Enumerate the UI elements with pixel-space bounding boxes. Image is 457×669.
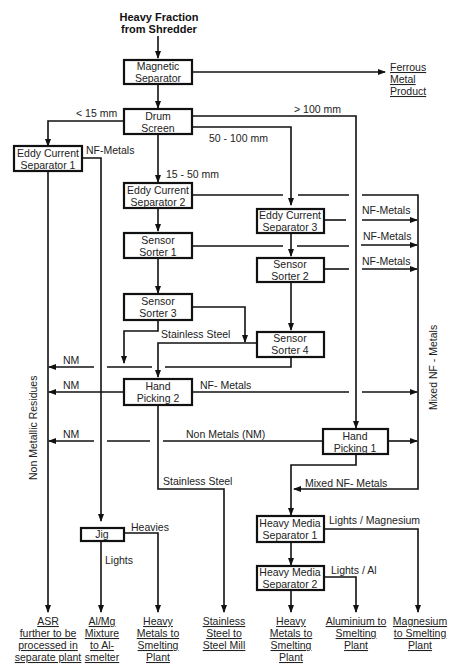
box-sensor-sorter-4: Sensor Sorter 4 xyxy=(257,332,324,357)
svg-text:Plant: Plant xyxy=(279,651,303,663)
svg-text:Drum: Drum xyxy=(145,110,171,122)
svg-text:Magnetic: Magnetic xyxy=(137,60,180,72)
box-sensor-sorter-1: Sensor Sorter 1 xyxy=(124,233,192,258)
title-line-1: Heavy Fraction xyxy=(120,11,199,23)
svg-text:Eddy Current: Eddy Current xyxy=(127,184,189,196)
svg-text:smelter: smelter xyxy=(85,651,120,663)
svg-text:Magnesium: Magnesium xyxy=(393,615,448,627)
box-heavy-media-separator-1: Heavy Media Separator 1 xyxy=(257,516,324,542)
svg-text:Steel Mill: Steel Mill xyxy=(203,639,246,651)
output-al-mg-mixture: Al/Mg Mixture to Al- smelter xyxy=(85,615,120,663)
svg-text:to Al-: to Al- xyxy=(90,639,114,651)
output-ferrous-metal-product: Ferrous Metal Product xyxy=(390,61,426,97)
svg-text:separate plant: separate plant xyxy=(15,651,82,663)
box-eddy-current-separator-3: Eddy Current Separator 3 xyxy=(257,209,324,233)
label-lights: Lights xyxy=(105,554,133,566)
svg-text:Separator 2: Separator 2 xyxy=(131,196,186,208)
svg-text:Eddy Current: Eddy Current xyxy=(259,209,321,221)
output-aluminium: Aluminium to Smelting Plant xyxy=(326,615,387,651)
output-heavy-metals-2: Heavy Metals to Smelting Plant xyxy=(270,615,313,663)
label-lights-magnesium: Lights / Magnesium xyxy=(329,514,420,526)
label-nm-1: NM xyxy=(63,354,79,366)
svg-text:Heavy: Heavy xyxy=(276,615,307,627)
svg-text:further to be: further to be xyxy=(20,627,77,639)
box-hand-picking-2: Hand Picking 2 xyxy=(124,379,192,405)
label-heavies: Heavies xyxy=(131,521,169,533)
svg-text:Separator 2: Separator 2 xyxy=(263,578,318,590)
label-stainless-steel-1: Stainless Steel xyxy=(161,328,230,340)
svg-text:Smelting: Smelting xyxy=(138,639,179,651)
box-sensor-sorter-2: Sensor Sorter 2 xyxy=(257,258,324,282)
label-non-metallic-residues: Non Metallic Residues xyxy=(27,376,39,480)
svg-text:to Smelting: to Smelting xyxy=(394,627,447,639)
svg-text:Sensor: Sensor xyxy=(273,332,307,344)
label-mixed-nf-metals-vertical: Mixed NF - Metals xyxy=(427,325,439,410)
svg-text:Separator 1: Separator 1 xyxy=(21,159,76,171)
svg-text:Jig: Jig xyxy=(95,528,109,540)
box-hand-picking-1: Hand Picking 1 xyxy=(323,429,388,454)
svg-text:Sorter 3: Sorter 3 xyxy=(139,307,177,319)
svg-text:Picking 1: Picking 1 xyxy=(334,442,377,454)
svg-text:Hand: Hand xyxy=(342,430,367,442)
svg-text:Plant: Plant xyxy=(344,639,368,651)
svg-text:Steel to: Steel to xyxy=(206,627,242,639)
svg-text:processed in: processed in xyxy=(18,639,78,651)
svg-text:Hand: Hand xyxy=(145,380,170,392)
label-nf-metals-ss1: NF-Metals xyxy=(363,230,411,242)
svg-text:Sorter 2: Sorter 2 xyxy=(271,270,309,282)
svg-text:Screen: Screen xyxy=(141,122,174,134)
svg-text:Sensor: Sensor xyxy=(141,295,175,307)
box-drum-screen: Drum Screen xyxy=(124,109,192,134)
label-mixed-nf-metals: Mixed NF- Metals xyxy=(305,477,387,489)
label-nm-3: NM xyxy=(63,428,79,440)
label-non-metals: Non Metals (NM) xyxy=(186,428,265,440)
box-heavy-media-separator-2: Heavy Media Separator 2 xyxy=(257,566,324,590)
box-magnetic-separator: Magnetic Separator xyxy=(124,60,192,84)
svg-text:Stainless: Stainless xyxy=(203,615,246,627)
svg-text:Metals to: Metals to xyxy=(137,627,180,639)
svg-text:Separator 3: Separator 3 xyxy=(263,221,318,233)
svg-text:Plant: Plant xyxy=(146,651,170,663)
box-jig: Jig xyxy=(81,528,124,541)
label-nf-metals-hp2: NF- Metals xyxy=(200,379,251,391)
label-lt-15mm: < 15 mm xyxy=(76,107,117,119)
svg-text:Aluminium to: Aluminium to xyxy=(326,615,387,627)
svg-text:ASR: ASR xyxy=(37,615,59,627)
svg-text:Heavy: Heavy xyxy=(143,615,174,627)
svg-text:Picking 2: Picking 2 xyxy=(137,392,180,404)
label-stainless-steel-2: Stainless Steel xyxy=(163,475,232,487)
box-eddy-current-separator-2: Eddy Current Separator 2 xyxy=(124,183,192,208)
label-gt-100mm: > 100 mm xyxy=(294,103,341,115)
svg-text:Smelting: Smelting xyxy=(336,627,377,639)
svg-text:Heavy Media: Heavy Media xyxy=(259,566,320,578)
label-nf-metals-ecs3: NF-Metals xyxy=(362,204,410,216)
svg-text:Separator: Separator xyxy=(135,72,182,84)
svg-text:Sensor: Sensor xyxy=(273,258,307,270)
output-heavy-metals-1: Heavy Metals to Smelting Plant xyxy=(137,615,180,663)
output-asr: ASR further to be processed in separate … xyxy=(15,615,82,663)
svg-text:Mixture: Mixture xyxy=(85,627,120,639)
svg-text:Sensor: Sensor xyxy=(141,234,175,246)
process-flow-diagram: Heavy Fraction from Shredder xyxy=(0,0,457,669)
box-sensor-sorter-3: Sensor Sorter 3 xyxy=(124,294,192,320)
svg-text:Metals to: Metals to xyxy=(270,627,313,639)
label-50-100mm: 50 - 100 mm xyxy=(209,132,268,144)
svg-text:Al/Mg: Al/Mg xyxy=(89,615,116,627)
label-lights-al: Lights / Al xyxy=(331,564,377,576)
svg-text:Ferrous: Ferrous xyxy=(390,61,426,73)
label-nm-2: NM xyxy=(63,379,79,391)
svg-text:Metal: Metal xyxy=(390,73,416,85)
label-nf-metals-ecs1: NF-Metals xyxy=(86,144,134,156)
svg-text:Sorter 1: Sorter 1 xyxy=(139,246,177,258)
svg-text:Smelting: Smelting xyxy=(271,639,312,651)
box-eddy-current-separator-1: Eddy Current Separator 1 xyxy=(14,146,82,171)
output-stainless-steel: Stainless Steel to Steel Mill xyxy=(203,615,246,651)
svg-text:Separator 1: Separator 1 xyxy=(263,529,318,541)
svg-text:Sorter 4: Sorter 4 xyxy=(271,344,309,356)
label-15-50mm: 15 - 50 mm xyxy=(166,168,219,180)
svg-text:Product: Product xyxy=(390,85,426,97)
svg-text:Eddy Current: Eddy Current xyxy=(17,147,79,159)
title-line-2: from Shredder xyxy=(121,23,198,35)
svg-text:Heavy Media: Heavy Media xyxy=(259,517,320,529)
output-magnesium: Magnesium to Smelting Plant xyxy=(393,615,448,651)
